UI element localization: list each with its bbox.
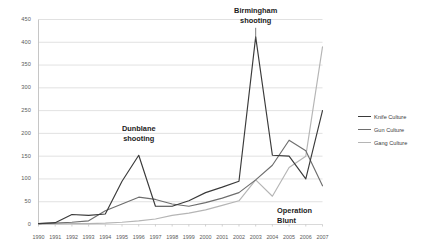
legend-swatch-gang-culture bbox=[358, 142, 371, 143]
annotation-dunblane-line1: Dunblane bbox=[91, 124, 187, 134]
y-axis-tick-label: 0 bbox=[9, 221, 31, 227]
y-axis-tick-label: 400 bbox=[9, 39, 31, 45]
y-axis-tick-label: 250 bbox=[9, 107, 31, 113]
x-axis-tick-label: 2001 bbox=[213, 234, 231, 240]
x-axis-tick-label: 2005 bbox=[280, 234, 298, 240]
annotation-dunblane-shooting: Dunblane shooting bbox=[91, 124, 187, 144]
y-axis-tick-label: 300 bbox=[9, 84, 31, 90]
x-axis-tick-label: 1999 bbox=[180, 234, 198, 240]
annotation-blunt-line1: Operation bbox=[277, 206, 337, 216]
x-axis-tick-label: 2000 bbox=[197, 234, 215, 240]
legend-label-knife-culture: Knife Culture bbox=[374, 114, 406, 120]
legend-label-gang-culture: Gang Culture bbox=[374, 140, 407, 146]
x-axis-tick-label: 2004 bbox=[263, 234, 281, 240]
annotation-birmingham-line2: shooting bbox=[208, 16, 304, 26]
x-axis-tick-label: 1992 bbox=[63, 234, 81, 240]
x-axis-tick-label: 1996 bbox=[130, 234, 148, 240]
x-axis-tick-label: 1990 bbox=[30, 234, 48, 240]
legend-label-gun-culture: Gun Culture bbox=[374, 127, 404, 133]
x-axis-tick-label: 2007 bbox=[314, 234, 332, 240]
legend-item-knife-culture: Knife Culture bbox=[358, 110, 436, 123]
x-axis-tick-label: 1993 bbox=[80, 234, 98, 240]
y-axis-tick-label: 200 bbox=[9, 130, 31, 136]
x-axis-tick-label: 2003 bbox=[247, 234, 265, 240]
x-axis-tick-label: 1991 bbox=[46, 234, 64, 240]
x-axis-tick-label: 2002 bbox=[230, 234, 248, 240]
annotation-birmingham-shooting: Birmingham shooting bbox=[208, 6, 304, 26]
x-axis-tick-label: 1997 bbox=[146, 234, 164, 240]
y-axis-tick-label: 100 bbox=[9, 175, 31, 181]
legend-item-gun-culture: Gun Culture bbox=[358, 123, 436, 136]
y-axis-tick-label: 450 bbox=[9, 16, 31, 22]
annotation-birmingham-line1: Birmingham bbox=[208, 6, 304, 16]
legend-item-gang-culture: Gang Culture bbox=[358, 136, 436, 149]
x-axis-tick-label: 2006 bbox=[297, 234, 315, 240]
legend-swatch-knife-culture bbox=[358, 116, 371, 117]
x-axis-tick-label: 1998 bbox=[163, 234, 181, 240]
x-axis-tick-label: 1994 bbox=[96, 234, 114, 240]
x-axis-tick-label: 1995 bbox=[113, 234, 131, 240]
y-axis-tick-label: 350 bbox=[9, 61, 31, 67]
y-axis-tick-label: 50 bbox=[9, 198, 31, 204]
y-axis-tick-label: 150 bbox=[9, 153, 31, 159]
annotation-dunblane-line2: shooting bbox=[91, 134, 187, 144]
annotation-blunt-line2: Blunt bbox=[277, 216, 337, 226]
legend-swatch-gun-culture bbox=[358, 129, 371, 130]
chart-legend: Knife Culture Gun Culture Gang Culture bbox=[358, 110, 436, 149]
annotation-operation-blunt: Operation Blunt bbox=[277, 206, 337, 226]
